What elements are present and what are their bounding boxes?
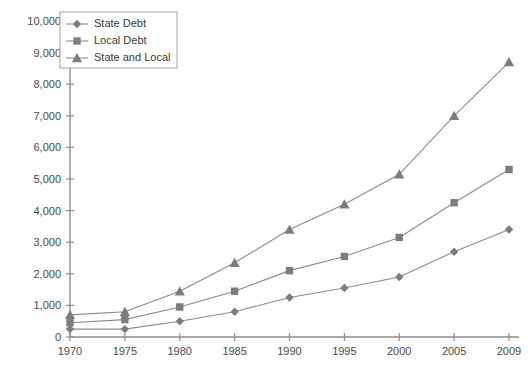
marker-square <box>121 316 128 323</box>
series-container <box>65 57 514 333</box>
marker-square <box>450 199 457 206</box>
x-tick-label: 1980 <box>168 345 192 357</box>
x-tick-label: 2005 <box>442 345 466 357</box>
marker-square <box>231 287 238 294</box>
marker-square <box>505 166 512 173</box>
marker-triangle <box>284 225 294 234</box>
marker-triangle <box>120 307 130 316</box>
legend-label: State Debt <box>94 17 146 29</box>
series-state-debt <box>66 225 513 333</box>
x-tick-label: 1990 <box>277 345 301 357</box>
y-tick-label: 4,000 <box>33 205 61 217</box>
line-chart: 01,0002,0003,0004,0005,0006,0007,0008,00… <box>0 0 528 371</box>
marker-triangle <box>175 286 185 295</box>
legend-label: Local Debt <box>94 34 147 46</box>
y-tick-label: 1,000 <box>33 299 61 311</box>
series-line <box>70 230 509 330</box>
y-tick-label: 9,000 <box>33 47 61 59</box>
marker-square <box>396 234 403 241</box>
series-line <box>70 62 509 315</box>
marker-triangle <box>339 199 349 208</box>
x-axis: 197019751980198519901995200020052009 <box>58 333 521 357</box>
series-state-and-local <box>65 57 514 319</box>
y-tick-label: 0 <box>55 331 61 343</box>
y-tick-label: 2,000 <box>33 268 61 280</box>
marker-diamond <box>176 317 184 325</box>
x-tick-label: 1975 <box>113 345 137 357</box>
marker-diamond <box>340 284 348 292</box>
marker-square <box>176 303 183 310</box>
x-tick-label: 1970 <box>58 345 82 357</box>
marker-square <box>66 319 73 326</box>
marker-square <box>341 253 348 260</box>
y-tick-label: 8,000 <box>33 78 61 90</box>
chart-canvas: 01,0002,0003,0004,0005,0006,0007,0008,00… <box>0 0 528 371</box>
x-tick-label: 2009 <box>497 345 521 357</box>
marker-triangle <box>230 258 240 267</box>
y-tick-label: 5,000 <box>33 173 61 185</box>
marker-triangle <box>504 57 514 66</box>
y-tick-label: 3,000 <box>33 236 61 248</box>
marker-diamond <box>395 273 403 281</box>
marker-diamond <box>450 247 458 255</box>
marker-diamond <box>505 225 513 233</box>
x-tick-label: 1995 <box>332 345 356 357</box>
y-tick-label: 6,000 <box>33 141 61 153</box>
marker-diamond <box>230 308 238 316</box>
x-tick-label: 1985 <box>222 345 246 357</box>
marker-diamond <box>285 293 293 301</box>
marker-diamond <box>121 325 129 333</box>
marker-square <box>73 37 80 44</box>
x-tick-label: 2000 <box>387 345 411 357</box>
series-local-debt <box>66 166 512 327</box>
marker-square <box>286 267 293 274</box>
y-tick-label: 10,000 <box>27 15 61 27</box>
y-tick-label: 7,000 <box>33 110 61 122</box>
chart-legend: State DebtLocal DebtState and Local <box>60 12 177 68</box>
legend-label: State and Local <box>94 51 170 63</box>
